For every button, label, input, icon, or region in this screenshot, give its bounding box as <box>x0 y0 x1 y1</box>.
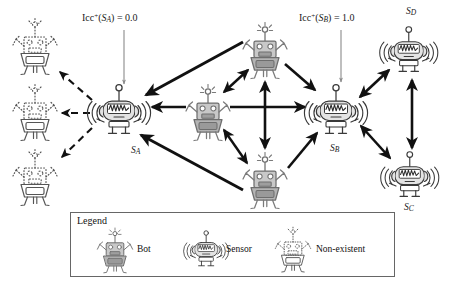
label-sc-sub: C <box>409 204 414 213</box>
edge-botbottom-sb <box>288 133 317 168</box>
legend-label-non-existent: Non-existent <box>316 244 365 254</box>
icc-a-value: 0.0 <box>125 12 138 23</box>
node-bot-top[interactable] <box>243 23 287 79</box>
node-ghost-bottom[interactable] <box>13 150 57 206</box>
edge-botcenter-botbottom <box>224 130 247 163</box>
edge-botbottom-sa <box>141 135 243 190</box>
edge-sb-sc <box>361 126 390 158</box>
legend-box: Legend Bot Sensor Non-existent <box>70 212 395 277</box>
annotation-icc-b: Icc+(SB) = 1.0 <box>299 12 355 24</box>
legend-bot-icon <box>97 228 132 273</box>
node-bot-center[interactable] <box>186 85 230 141</box>
node-sensor-b[interactable] <box>304 85 367 134</box>
legend-label-bot: Bot <box>137 244 151 254</box>
label-sb: SB <box>330 143 339 154</box>
node-ghost-top[interactable] <box>13 19 57 75</box>
label-sa: SA <box>131 145 140 156</box>
edge-botcenter-bottop <box>224 70 248 92</box>
icc-a-metric: Icc <box>82 12 94 23</box>
edge-sb-sd <box>360 70 389 97</box>
legend-non-existent-icon <box>275 227 310 272</box>
label-sc: SC <box>404 202 414 213</box>
node-sensor-d[interactable] <box>380 27 438 72</box>
icc-b-value: 1.0 <box>342 12 355 23</box>
label-sb-sub: B <box>335 145 340 154</box>
legend-sensor-icon <box>183 231 228 266</box>
node-ghost-mid[interactable] <box>13 85 57 141</box>
edge-sa-ghost-top <box>60 72 92 100</box>
label-sd: SD <box>406 6 416 17</box>
edge-sa-ghost-bottom <box>62 128 92 157</box>
edge-bottop-sb <box>285 64 315 90</box>
annotation-icc-a: Icc+(SA) = 0.0 <box>82 12 138 24</box>
node-bot-bottom[interactable] <box>243 153 287 209</box>
label-sd-sub: D <box>411 8 416 17</box>
figure-canvas: Icc+(SA) = 0.0 Icc+(SB) = 1.0 SA SB SD S… <box>0 0 451 288</box>
node-sensor-a[interactable] <box>87 85 150 134</box>
label-sa-sub: A <box>136 147 141 156</box>
legend-label-sensor: Sensor <box>226 244 252 254</box>
icc-b-metric: Icc <box>299 12 311 23</box>
